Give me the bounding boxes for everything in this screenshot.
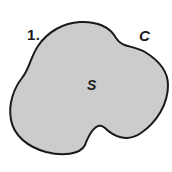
region-diagram-svg	[0, 0, 172, 172]
figure-container: 1. C S	[0, 0, 172, 172]
boundary-curve-label: C	[139, 28, 150, 43]
problem-number-label: 1.	[27, 27, 40, 42]
region-area-label: S	[87, 78, 96, 92]
